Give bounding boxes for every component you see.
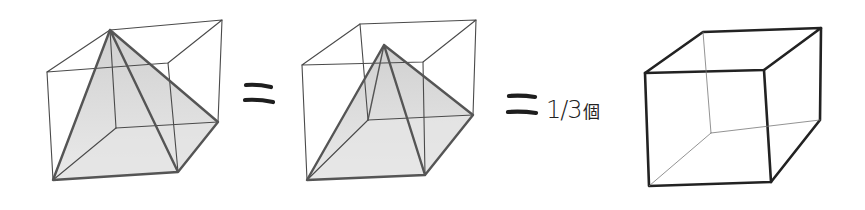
cube-3-top xyxy=(645,28,821,73)
cube-3-hidden-edge xyxy=(703,32,711,133)
cube-pyramid-1 xyxy=(47,20,222,180)
diagram-canvas xyxy=(0,0,865,210)
cube-2-edge xyxy=(473,20,476,115)
cube-1-edge xyxy=(47,72,53,180)
cube-3-hidden-edge xyxy=(649,133,711,186)
equals-sign-1 xyxy=(245,85,273,102)
fraction-label: 1/3個 xyxy=(546,96,599,124)
cube-2-edge xyxy=(302,65,307,180)
unit-label: 個 xyxy=(583,102,599,122)
cube-pyramid-2 xyxy=(302,20,476,180)
equals-sign-2 xyxy=(508,96,536,113)
cube-3-hidden-edge xyxy=(711,120,820,133)
empty-cube xyxy=(645,28,821,186)
cube-3-right xyxy=(771,28,821,182)
cube-1-edge xyxy=(218,20,222,122)
fraction-value: 1/3 xyxy=(546,96,582,124)
